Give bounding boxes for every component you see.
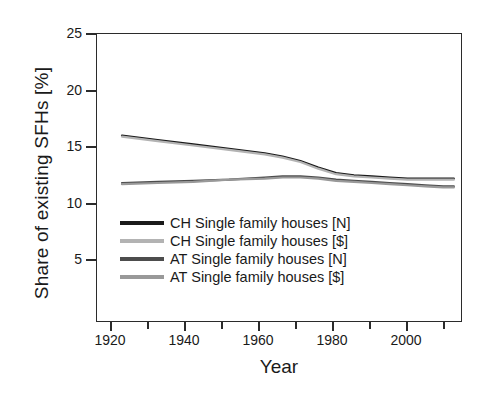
legend-item: CH Single family houses [$] <box>120 232 351 250</box>
chart-legend: CH Single family houses [N]CH Single fam… <box>120 214 351 286</box>
legend-swatch-icon <box>120 275 164 279</box>
data-series-line <box>122 137 454 180</box>
y-tick-label-10: 10 <box>42 195 82 211</box>
legend-item: AT Single family houses [N] <box>120 250 351 268</box>
y-axis-title: Share of existing SFHs [%] <box>31 23 53 343</box>
x-tick-label-1920: 1920 <box>80 332 140 348</box>
legend-item-label: AT Single family houses [$] <box>170 268 344 286</box>
y-tick-10 <box>86 203 96 205</box>
y-tick-15 <box>86 146 96 148</box>
x-tick-2000 <box>406 322 408 331</box>
x-tick-1990 <box>369 322 371 329</box>
y-tick-label-15: 15 <box>42 138 82 154</box>
x-tick-1980 <box>332 322 334 331</box>
chart-figure: Share of existing SFHs [%] 25 20 15 10 5… <box>0 0 480 400</box>
legend-item-label: CH Single family houses [$] <box>170 232 348 250</box>
x-tick-1940 <box>184 322 186 331</box>
legend-swatch-icon <box>120 221 164 225</box>
x-tick-label-2000: 2000 <box>376 332 436 348</box>
y-tick-label-5: 5 <box>42 251 82 267</box>
x-tick-1920 <box>110 322 112 331</box>
x-tick-1960 <box>258 322 260 331</box>
y-tick-label-25: 25 <box>42 25 82 41</box>
legend-item-label: CH Single family houses [N] <box>170 214 351 232</box>
x-tick-1950 <box>221 322 223 329</box>
x-tick-1970 <box>295 322 297 329</box>
x-axis-title: Year <box>96 356 462 378</box>
x-tick-2010 <box>443 322 445 329</box>
y-tick-label-20: 20 <box>42 82 82 98</box>
x-tick-label-1940: 1940 <box>154 332 214 348</box>
x-tick-1930 <box>147 322 149 329</box>
legend-item: CH Single family houses [N] <box>120 214 351 232</box>
legend-item: AT Single family houses [$] <box>120 268 351 286</box>
x-tick-label-1960: 1960 <box>228 332 288 348</box>
y-tick-25 <box>86 33 96 35</box>
legend-item-label: AT Single family houses [N] <box>170 250 347 268</box>
legend-swatch-icon <box>120 257 164 261</box>
y-tick-20 <box>86 90 96 92</box>
y-tick-5 <box>86 259 96 261</box>
legend-swatch-icon <box>120 239 164 243</box>
x-tick-label-1980: 1980 <box>302 332 362 348</box>
